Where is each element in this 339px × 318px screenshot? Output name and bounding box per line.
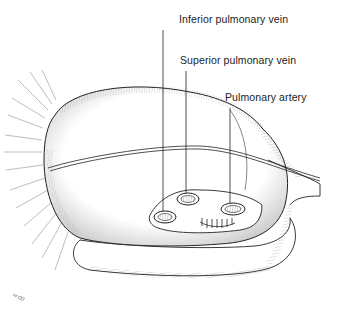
pulmonary-artery-stump: [221, 203, 245, 215]
inferior-pulmonary-vein-stump: [154, 211, 176, 223]
label-superior-pulmonary-vein: Superior pulmonary vein: [180, 54, 296, 66]
label-inferior-pulmonary-vein: Inferior pulmonary vein: [179, 13, 288, 25]
label-pulmonary-artery: Pulmonary artery: [225, 91, 307, 103]
illustration-canvas: Inferior pulmonary vein Superior pulmona…: [0, 0, 339, 318]
lung-illustration: [0, 0, 339, 318]
superior-pulmonary-vein-stump: [177, 193, 199, 205]
